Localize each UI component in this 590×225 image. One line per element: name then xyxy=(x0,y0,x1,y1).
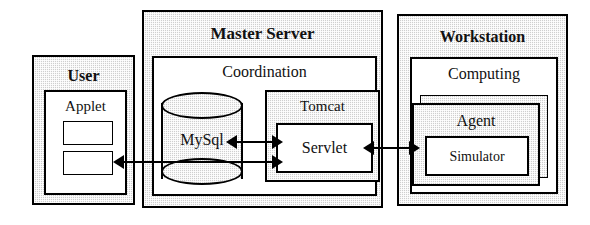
node-agent: Agent Simulator xyxy=(412,103,540,186)
node-coordination-label: Coordination xyxy=(154,64,375,80)
connection-servlet-applet-arrowhead-right xyxy=(272,155,283,169)
node-master-server-label: Master Server xyxy=(144,25,381,42)
node-simulator-label: Simulator xyxy=(427,150,527,164)
node-user-label: User xyxy=(34,68,133,84)
node-servlet-label: Servlet xyxy=(278,140,371,156)
connection-servlet-agent-arrowhead-left xyxy=(363,141,374,155)
node-applet: Applet xyxy=(44,90,127,195)
connection-servlet-mysql-arrowhead-left xyxy=(226,135,237,149)
architecture-diagram: User Applet Master Server Coordination T… xyxy=(0,0,590,225)
node-simulator: Simulator xyxy=(425,136,529,176)
applet-field-1 xyxy=(63,121,113,145)
mysql-cylinder-top-cap xyxy=(161,92,243,119)
node-applet-label: Applet xyxy=(46,99,125,114)
node-servlet: Servlet xyxy=(276,123,373,173)
node-user: User Applet xyxy=(32,55,135,205)
connection-servlet-applet-line xyxy=(124,161,280,163)
node-tomcat-label: Tomcat xyxy=(267,99,378,114)
node-agent-label: Agent xyxy=(414,113,538,129)
connection-servlet-mysql-arrowhead-right xyxy=(272,135,283,149)
applet-field-2 xyxy=(63,151,113,175)
connection-servlet-agent-arrowhead-right xyxy=(409,141,420,155)
connection-servlet-applet-arrowhead-left xyxy=(113,155,124,169)
node-workstation-label: Workstation xyxy=(399,29,566,45)
node-computing-label: Computing xyxy=(412,66,556,82)
